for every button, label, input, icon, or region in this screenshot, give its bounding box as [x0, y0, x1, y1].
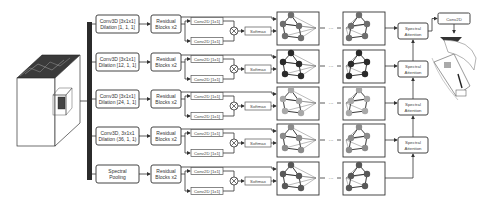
spectral-attention-label-line1: Spectral	[405, 26, 421, 31]
graph-box-first	[277, 50, 319, 83]
graph-box-first	[277, 12, 319, 45]
branch-1: Conv3D [3x1x1]Dilation [1, 1, 1]Residual…	[92, 12, 385, 45]
residual-blocks-box: ResidualBlocks x2	[151, 53, 181, 71]
softmax-box: Softmax	[245, 27, 271, 35]
graph-node	[364, 21, 370, 27]
branch-2: Conv3D [3x1x1]Dilation [12, 1, 1]Residua…	[92, 50, 385, 83]
conv3d-label-line2: Dilation [12, 1, 1]	[99, 62, 137, 68]
ellipsis: ···	[329, 25, 334, 31]
graph-node	[298, 110, 304, 116]
residual-label-line2: Blocks x2	[155, 62, 177, 68]
graph-node	[348, 61, 354, 67]
residual-blocks-box: ResidualBlocks x2	[151, 165, 181, 183]
graph-box-last	[343, 50, 385, 83]
conv2d-bottom-box: Conv2D [1x1]	[191, 188, 223, 195]
conv2d-bottom-label: Conv2D [1x1]	[194, 151, 220, 156]
multiply-icon	[230, 177, 238, 185]
residual-label-line2: Blocks x2	[155, 24, 177, 30]
residual-label-line1: Residual	[156, 168, 175, 174]
spectral-attention-box-1: SpectralAttention	[398, 23, 428, 39]
conv2d-top-label: Conv2D [1x1]	[194, 57, 220, 62]
classification-map-output	[432, 37, 476, 100]
softmax-label: Softmax	[250, 179, 267, 184]
graph-node	[346, 185, 352, 191]
graph-node	[364, 171, 370, 177]
graph-node	[346, 35, 352, 41]
graph-node	[288, 87, 294, 93]
graph-node	[288, 12, 294, 18]
spectral-attention-label-line2: Attention	[405, 108, 423, 113]
conv2d-top-box: Conv2D [1x1]	[191, 130, 223, 137]
graph-node	[288, 162, 294, 168]
graph-node	[298, 73, 304, 79]
residual-label-line2: Blocks x2	[155, 99, 177, 105]
residual-blocks-box: ResidualBlocks x2	[151, 127, 181, 145]
multiply-icon	[230, 27, 238, 35]
ellipsis: ···	[329, 100, 334, 106]
multiply-icon	[230, 102, 238, 110]
graph-node	[282, 145, 288, 151]
graph-node	[348, 23, 354, 29]
ellipsis: ···	[329, 137, 334, 143]
graph-box-first	[277, 162, 319, 195]
feature-split-bar	[87, 22, 92, 180]
residual-label-line1: Residual	[156, 56, 175, 62]
multiply-icon	[230, 65, 238, 73]
conv2d-bottom-label: Conv2D [1x1]	[194, 114, 220, 119]
output-conv2d: Conv2D	[438, 13, 470, 33]
graph-node	[280, 133, 286, 139]
hyperspectral-cube-input	[17, 55, 87, 146]
residual-label-line2: Blocks x2	[155, 174, 177, 180]
graph-node	[296, 173, 302, 179]
graph-node	[362, 145, 368, 151]
residual-label-line1: Residual	[156, 18, 175, 24]
graph-node	[282, 108, 288, 114]
graph-node	[346, 147, 352, 153]
ellipsis: ···	[329, 63, 334, 69]
softmax-label: Softmax	[250, 104, 267, 109]
conv2d-bottom-label: Conv2D [1x1]	[194, 189, 220, 194]
spectral-attention-label-line2: Attention	[405, 32, 423, 37]
graph-node	[298, 147, 304, 153]
graph-node	[356, 87, 362, 93]
graph-node	[362, 71, 368, 77]
graph-box-first	[277, 124, 319, 157]
graph-node	[280, 21, 286, 27]
graph-box-last	[343, 87, 385, 120]
conv3d-label-line1: Spectral	[108, 168, 126, 174]
softmax-box: Softmax	[245, 177, 271, 185]
multiply-icon	[230, 139, 238, 147]
graph-node	[348, 173, 354, 179]
graph-node	[296, 61, 302, 67]
residual-blocks-box: ResidualBlocks x2	[151, 90, 181, 108]
graph-node	[288, 50, 294, 56]
conv2d-bottom-label: Conv2D [1x1]	[194, 77, 220, 82]
residual-label-line2: Blocks x2	[155, 136, 177, 142]
conv2d-bottom-box: Conv2D [1x1]	[191, 150, 223, 157]
conv3d-box: Conv3D [3x1x1]Dilation [12, 1, 1]	[96, 53, 139, 71]
graph-node	[346, 110, 352, 116]
conv2d-bottom-label: Conv2D [1x1]	[194, 39, 220, 44]
conv3d-box: SpectralPooling	[96, 165, 139, 183]
graph-node	[346, 73, 352, 79]
conv2d-top-box: Conv2D [1x1]	[191, 93, 223, 100]
conv2d-bottom-box: Conv2D [1x1]	[191, 76, 223, 83]
graph-node	[364, 96, 370, 102]
graph-node	[362, 108, 368, 114]
softmax-label: Softmax	[250, 29, 267, 34]
spectral-attention-label-line2: Attention	[405, 146, 423, 151]
graph-node	[364, 133, 370, 139]
conv3d-box: Conv3D [3x1x1]Dilation [1, 1, 1]	[96, 15, 139, 33]
softmax-box: Softmax	[245, 65, 271, 73]
graph-node	[298, 35, 304, 41]
graph-node	[356, 162, 362, 168]
spectral-attention-label-line1: Spectral	[405, 64, 421, 69]
graph-node	[288, 124, 294, 130]
conv3d-label-line2: Dilation [1, 1, 1]	[100, 24, 135, 30]
output-conv2d-label: Conv2D	[446, 17, 462, 22]
graph-node	[280, 96, 286, 102]
spectral-attention-box-2: SpectralAttention	[398, 61, 428, 77]
spectral-attention-label-line1: Spectral	[405, 102, 421, 107]
conv3d-label-line2: Dilation [24, 1, 1]	[99, 99, 137, 105]
softmax-box: Softmax	[245, 139, 271, 147]
